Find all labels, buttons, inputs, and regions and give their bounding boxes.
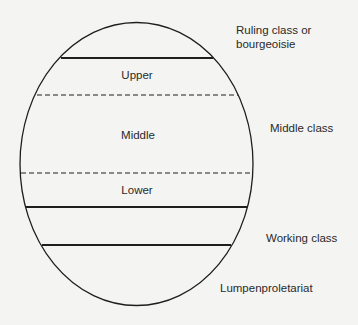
class-diagram [0, 0, 358, 325]
working-class-label: Working class [266, 231, 337, 245]
middle-label: Middle [121, 128, 155, 142]
lumpenproletariat-label: Lumpenproletariat [220, 281, 313, 295]
middle-class-label: Middle class [270, 121, 333, 135]
upper-label: Upper [121, 68, 152, 82]
lower-label: Lower [121, 183, 152, 197]
ruling-class-label-line2: bourgeoisie [236, 37, 295, 51]
society-ellipse [20, 23, 253, 306]
ruling-class-label-line1: Ruling class or [236, 23, 311, 37]
